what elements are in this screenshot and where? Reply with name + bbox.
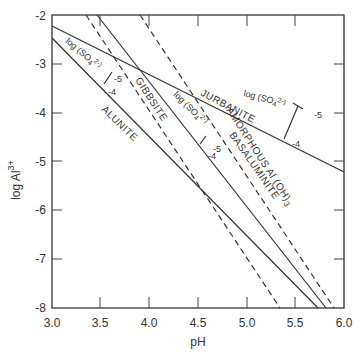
annotation-alunite: log (SO42-) -5 -4 (63, 35, 122, 97)
chart: -2 -3 -4 -5 -6 -7 -8 3.0 3.5 4.0 4.5 5.0… (0, 0, 361, 356)
x-tick-label: 4.0 (141, 316, 158, 330)
x-tick-label: 3.5 (92, 316, 109, 330)
y-tick-label: -8 (35, 301, 46, 315)
y-tick-label: -2 (35, 9, 46, 23)
svg-text:log (SO42-): log (SO42-) (63, 35, 104, 72)
svg-text:-4: -4 (108, 87, 116, 97)
alunite-label: ALUNITE (100, 104, 141, 144)
y-tick-label: -6 (35, 203, 46, 217)
svg-text:-4: -4 (208, 151, 216, 161)
y-tick-label: -7 (35, 252, 46, 266)
x-axis-label: pH (190, 335, 205, 349)
x-tick-label: 3.0 (44, 316, 61, 330)
amorphous-line (140, 15, 334, 308)
svg-text:log (SO42-): log (SO42-) (242, 87, 287, 110)
svg-text:-4: -4 (292, 139, 300, 149)
y-tick-label: -4 (35, 106, 46, 120)
svg-text:-5: -5 (314, 110, 322, 120)
y-tick-label: -5 (35, 155, 46, 169)
svg-text:-5: -5 (114, 74, 122, 84)
x-tick-label: 4.5 (190, 316, 207, 330)
svg-text:log Al3+: log Al3+ (6, 160, 23, 200)
x-tick-label: 6.0 (336, 316, 353, 330)
jurbanite-line (52, 26, 344, 172)
amorphous-label: AMORPHOUS Al (OH)3 (222, 105, 296, 209)
y-tick-label: -3 (35, 57, 46, 71)
x-tick-label: 5.5 (287, 316, 304, 330)
gibbsite-line (97, 15, 326, 308)
x-tick-label: 5.0 (239, 316, 256, 330)
y-axis-label: log Al3+ (6, 160, 23, 200)
